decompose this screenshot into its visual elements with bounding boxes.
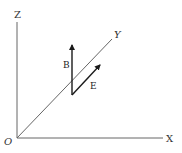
origin-label: O	[4, 136, 12, 147]
b-vector-label: B	[63, 60, 70, 70]
y-axis	[17, 39, 112, 138]
x-axis-label: X	[166, 133, 174, 144]
z-axis-label: Z	[14, 9, 21, 20]
e-vector-label: E	[90, 81, 97, 91]
em-wave-diagram: Z Y X O B E	[0, 0, 182, 153]
y-axis-label: Y	[114, 29, 122, 40]
